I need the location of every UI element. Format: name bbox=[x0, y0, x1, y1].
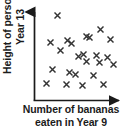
scatter-point bbox=[83, 58, 90, 65]
scatter-point bbox=[96, 59, 103, 66]
scatter-point bbox=[47, 39, 54, 46]
scatter-point bbox=[68, 40, 75, 47]
scatter-point bbox=[79, 82, 86, 89]
scatter-point bbox=[93, 52, 100, 59]
scatter-point bbox=[86, 34, 93, 41]
scatter-point bbox=[100, 81, 107, 88]
scatter-point bbox=[107, 36, 114, 43]
scatter-point bbox=[49, 66, 56, 73]
scatter-point bbox=[90, 72, 97, 79]
plot-area bbox=[0, 0, 129, 130]
scatter-point bbox=[110, 61, 117, 68]
scatter-point bbox=[57, 47, 64, 54]
scatter-point bbox=[72, 71, 79, 78]
scatter-point bbox=[104, 54, 111, 61]
scatter-point bbox=[97, 26, 104, 33]
scatter-point bbox=[75, 53, 82, 60]
scatter-point bbox=[43, 80, 50, 87]
scatter-point bbox=[54, 12, 61, 19]
scatter-point bbox=[63, 81, 70, 88]
scatter-graph-figure: Height of person in Year 13 Number of ba… bbox=[0, 0, 129, 130]
